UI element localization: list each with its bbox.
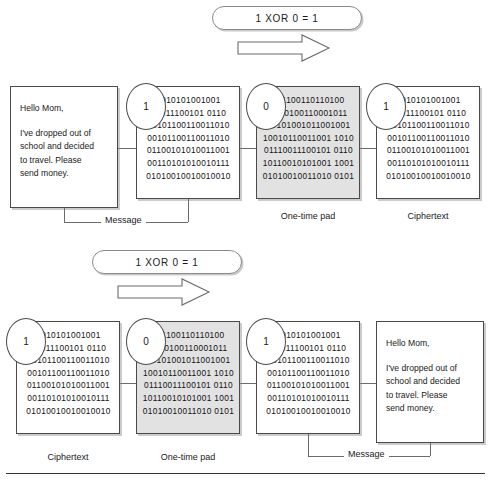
bit-row: 01010010011010 0101	[141, 405, 236, 418]
bit-bubble-plaintext-top: 1	[126, 83, 166, 130]
label-message-top: Message	[101, 215, 146, 225]
label-ciphertext-top: Ciphertext	[376, 211, 480, 221]
bit-bubble-label: 1	[383, 101, 389, 112]
bit-row: 01010010010010010	[21, 405, 116, 418]
bit-row: 01110011100101 0110	[141, 379, 236, 392]
banner-xor-bottom-label: 1 XOR 0 = 1	[135, 257, 198, 268]
bit-bubble-label: 0	[143, 336, 149, 347]
bracket-right-top	[188, 199, 189, 222]
bit-row: 10110010101001 1001	[141, 392, 236, 405]
right-arrow-icon-bottom	[116, 277, 212, 307]
bit-row: 00110101010010111	[381, 157, 476, 170]
banner-xor-bottom: 1 XOR 0 = 1	[92, 250, 242, 274]
right-arrow-icon-top	[236, 33, 332, 63]
diagram-canvas: 1 XOR 0 = 1 Hello Mom, I've dropped out …	[0, 0, 491, 481]
bracket-left-top	[64, 208, 65, 222]
plaintext-message-box-bottom: Hello Mom, I've dropped out of school an…	[376, 321, 484, 443]
label-one-time-pad-top: One-time pad	[256, 211, 360, 221]
bit-row: 01110011100101 0110	[261, 144, 356, 157]
bit-bubble-ciphertext-top: 1	[366, 83, 406, 130]
bit-row: 10010110011001 1010	[141, 367, 236, 380]
banner-xor-top-label: 1 XOR 0 = 1	[255, 13, 318, 24]
bit-bubble-label: 0	[263, 101, 269, 112]
footer-rule	[6, 473, 485, 474]
connector-top-1	[116, 148, 138, 149]
message-line-5: send money.	[386, 402, 477, 415]
message-line-3: school and decided	[20, 140, 111, 153]
label-one-time-pad-bottom: One-time pad	[136, 452, 240, 462]
message-line-2: I've dropped out of	[386, 362, 477, 375]
bit-row: 01100101010011001	[381, 144, 476, 157]
bit-row: 01100101010011001	[21, 379, 116, 392]
bracket-left-bottom	[308, 434, 309, 456]
label-message-bottom: Message	[344, 449, 389, 459]
bit-row: 01100101010011001	[261, 379, 356, 392]
bit-bubble-ciphertext-bottom: 1	[6, 318, 46, 365]
bit-bubble-label: 1	[143, 101, 149, 112]
message-line-4: to travel. Please	[20, 154, 111, 167]
plaintext-message-text-bottom: Hello Mom, I've dropped out of school an…	[386, 337, 477, 415]
label-ciphertext-bottom: Ciphertext	[16, 452, 120, 462]
bit-row: 01010010010010010	[381, 170, 476, 183]
message-line-1: Hello Mom,	[20, 102, 111, 115]
message-line-3: school and decided	[386, 375, 477, 388]
bit-row: 01010010010010010	[141, 170, 236, 183]
bit-row: 00101100110011010	[261, 367, 356, 380]
bit-row: 00101100110011010	[21, 367, 116, 380]
message-line-1: Hello Mom,	[386, 337, 477, 350]
bit-row: 01010010010010010	[261, 405, 356, 418]
bit-row: 10110010101001 1001	[261, 157, 356, 170]
bit-row: 00101100110011010	[381, 132, 476, 145]
message-line-5: send money.	[20, 167, 111, 180]
bit-bubble-pad-bottom: 0	[126, 318, 166, 365]
bit-row: 01100101010011001	[141, 144, 236, 157]
bit-bubble-label: 1	[23, 336, 29, 347]
bit-row: 00101100110011010	[141, 132, 236, 145]
bit-row: 01010010011010 0101	[261, 170, 356, 183]
bit-row: 00110101010010111	[141, 157, 236, 170]
plaintext-message-box-top: Hello Mom, I've dropped out of school an…	[10, 86, 118, 208]
bit-row: 10010110011001 1010	[261, 132, 356, 145]
bracket-right-bottom	[430, 443, 431, 456]
banner-xor-top: 1 XOR 0 = 1	[212, 6, 362, 30]
message-line-4: to travel. Please	[386, 389, 477, 402]
bit-row: 00110101010010111	[21, 392, 116, 405]
plaintext-message-text-top: Hello Mom, I've dropped out of school an…	[20, 102, 111, 180]
bit-bubble-label: 1	[263, 336, 269, 347]
message-line-2: I've dropped out of	[20, 127, 111, 140]
bit-row: 00110101010010111	[261, 392, 356, 405]
bit-bubble-pad-top: 0	[246, 83, 286, 130]
bit-bubble-plaintext-bottom: 1	[246, 318, 286, 365]
